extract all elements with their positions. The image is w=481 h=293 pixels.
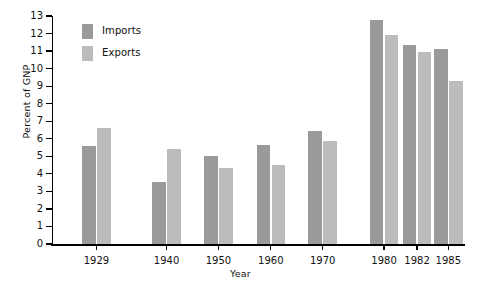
x-tick [448,244,449,250]
chart-figure: Percent of GNP Year 012345678910111213 1… [0,0,481,293]
x-tick-label: 1960 [258,256,283,266]
y-tick [46,33,52,34]
x-tick-label: 1982 [404,256,429,266]
y-tick-label: 3 [37,186,43,196]
bar-exports-1985 [449,81,463,244]
y-tick [46,86,52,87]
y-tick-label: 12 [30,29,43,39]
y-tick [46,191,52,192]
bar-imports-1985 [434,49,448,244]
bar-exports-1950 [219,168,233,244]
y-tick [46,50,52,51]
x-tick [383,244,384,250]
y-tick [46,103,52,104]
bar-imports-1960 [257,145,271,244]
x-tick-label: 1929 [84,256,109,266]
legend-label-exports: Exports [102,48,141,58]
y-tick-label: 6 [37,134,43,144]
x-tick-label: 1950 [206,256,231,266]
y-tick-label: 4 [37,169,43,179]
y-tick-label: 0 [37,239,43,249]
bar-exports-1980 [385,35,399,244]
y-tick-label: 9 [37,81,43,91]
x-tick-label: 1970 [310,256,335,266]
x-axis-line [51,244,465,246]
y-tick [46,68,52,69]
x-tick-label: 1940 [154,256,179,266]
legend-label-imports: Imports [102,26,141,36]
bar-imports-1950 [204,156,218,244]
x-tick [96,244,97,250]
bar-exports-1940 [167,149,181,244]
legend-swatch-exports [82,46,93,61]
chart-legend: Imports Exports [82,20,141,64]
y-tick [46,173,52,174]
x-tick-label: 1980 [371,256,396,266]
legend-swatch-imports [82,24,93,39]
bar-imports-1980 [370,20,384,244]
x-tick-label: 1985 [436,256,461,266]
x-tick [416,244,417,250]
y-tick-label: 11 [30,46,43,56]
legend-item-exports: Exports [82,42,141,64]
bar-exports-1970 [323,141,337,244]
legend-item-imports: Imports [82,20,141,42]
bar-imports-1982 [403,45,417,244]
y-tick [46,138,52,139]
x-tick [218,244,219,250]
y-tick-label: 5 [37,151,43,161]
y-tick-label: 8 [37,99,43,109]
plot-area: 012345678910111213 192919401950196019701… [52,16,464,244]
y-tick [46,226,52,227]
y-tick-label: 1 [37,221,43,231]
x-tick [270,244,271,250]
y-tick-label: 2 [37,204,43,214]
bar-exports-1960 [272,165,286,244]
bar-imports-1970 [308,131,322,244]
y-tick [46,243,52,244]
y-tick-label: 13 [30,11,43,21]
bar-exports-1982 [418,52,432,244]
y-tick-label: 7 [37,116,43,126]
bar-imports-1940 [152,182,166,244]
x-tick [322,244,323,250]
y-tick [46,15,52,16]
y-tick [46,121,52,122]
y-tick [46,208,52,209]
x-tick [166,244,167,250]
bar-exports-1929 [97,128,111,244]
x-axis-title: Year [0,268,481,279]
y-axis-line [52,16,53,244]
bar-imports-1929 [82,146,96,244]
y-tick [46,156,52,157]
y-tick-label: 10 [30,64,43,74]
